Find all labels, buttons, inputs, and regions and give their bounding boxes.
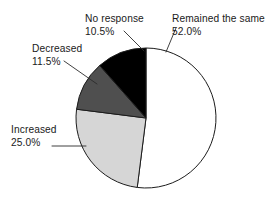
leader-line-no-response [124,31,144,51]
slice-label-name-decreased: Decreased [32,43,82,54]
slice-label-no-response: No response10.5% [85,13,144,37]
pie-slice-increased [76,109,146,187]
slice-label-decreased: Decreased11.5% [32,43,82,67]
pie-slices-group [76,48,216,188]
leader-line-decreased [64,61,97,84]
pie-chart-canvas: Remained the same52.0%No response10.5%De… [0,0,276,205]
slice-label-value-remained-the-same: 52.0% [172,26,201,37]
slice-label-name-no-response: No response [85,13,144,24]
slice-label-value-decreased: 11.5% [32,56,61,67]
slice-label-name-increased: Increased [11,124,57,135]
slice-label-increased: Increased25.0% [11,124,57,148]
slice-label-value-no-response: 10.5% [85,26,114,37]
pie-chart-figure: Remained the same52.0%No response10.5%De… [0,0,276,205]
slice-label-remained-the-same: Remained the same52.0% [172,13,265,37]
slice-label-name-remained-the-same: Remained the same [172,13,265,24]
pie-slice-remained-the-same [137,48,216,188]
slice-label-value-increased: 25.0% [11,137,40,148]
